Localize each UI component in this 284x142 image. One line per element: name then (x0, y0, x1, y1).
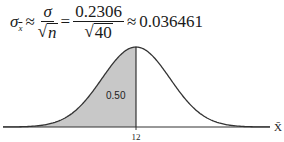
shaded-area-label: 0.50 (106, 90, 126, 101)
sigma-value: 0.2306 (73, 3, 124, 22)
approx-sign: ≈ (25, 12, 34, 32)
numeric-fraction: 0.2306 √ 40 (73, 3, 124, 41)
standard-error-formula: σ x ≈ σ √ n = 0.2306 √ 40 ≈ 0.036461 (10, 2, 203, 42)
equals-sign: = (61, 12, 71, 32)
sqrt-icon: √ (84, 23, 93, 40)
n-value: 40 (94, 23, 113, 41)
xbar-subscript: x (18, 23, 22, 33)
root-n: √ n (38, 22, 58, 41)
x-axis-label: X̄ (274, 121, 282, 133)
mean-tick-label: 12 (132, 132, 141, 142)
sqrt-icon: √ (38, 23, 47, 40)
normal-distribution-chart: 0.50 12 X̄ (0, 42, 284, 142)
sigma-numerator: σ (41, 3, 53, 22)
standard-error-result: 0.036461 (139, 12, 203, 32)
sigma-over-root-n: σ √ n (38, 3, 58, 41)
root-40: √ 40 (84, 22, 112, 41)
approx-sign-2: ≈ (127, 12, 136, 32)
n-var: n (47, 23, 58, 41)
